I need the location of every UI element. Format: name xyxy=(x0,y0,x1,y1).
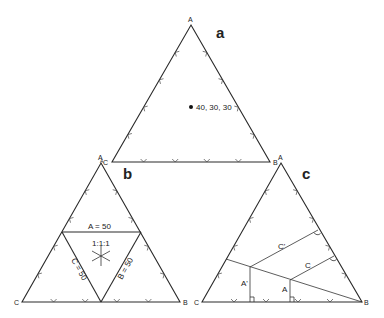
centroid-star-icon xyxy=(92,246,110,266)
vertex-a-top: A xyxy=(188,16,193,23)
right-angle-c-icon xyxy=(330,259,337,261)
segment-c xyxy=(290,256,334,280)
vertex-c-left: C xyxy=(194,299,199,306)
panel-b: A = 50 C = 50 B = 50 1:1:1 A C B b xyxy=(14,154,188,306)
panel-c: A' A C' C A C B c xyxy=(194,154,369,306)
triangle-c xyxy=(202,163,362,302)
label-c-prime: C' xyxy=(278,242,286,251)
label-c-50: C = 50 xyxy=(69,257,89,283)
vertex-c-top: A xyxy=(278,154,283,161)
right-angle-a-icon xyxy=(290,297,294,302)
ternary-diagram-figure: 40, 30, 30 A C B a A = 50 C = 50 B = 50 … xyxy=(0,0,384,318)
label-a-50: A = 50 xyxy=(88,222,111,231)
right-angle-a-prime-icon xyxy=(250,297,254,302)
triangle-a xyxy=(112,25,270,162)
vertex-b-left: C xyxy=(14,299,19,306)
label-b-50: B = 50 xyxy=(116,256,135,281)
right-angle-c-prime-icon xyxy=(314,233,321,235)
composition-point xyxy=(189,105,193,109)
label-ratio: 1:1:1 xyxy=(92,239,110,248)
label-a-prime: A' xyxy=(241,279,248,288)
vertex-c-right: B xyxy=(364,299,369,306)
vertex-a-left: C xyxy=(103,159,108,166)
vertex-b-right: B xyxy=(183,299,188,306)
panel-a: 40, 30, 30 A C B a xyxy=(103,16,278,166)
label-a: A xyxy=(282,285,288,294)
label-c: C xyxy=(305,261,311,270)
panel-label-a: a xyxy=(216,24,225,41)
panel-label-c: c xyxy=(302,165,310,182)
panel-label-b: b xyxy=(123,165,132,182)
point-label: 40, 30, 30 xyxy=(196,103,232,112)
